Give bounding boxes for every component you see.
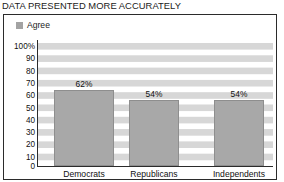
bar-independents[interactable]	[214, 100, 264, 166]
x-axis-category-labels: Democrats Republicans Independents	[37, 169, 273, 182]
bars-layer: 62% 54% 54%	[37, 43, 273, 166]
x-axis-line	[37, 166, 273, 167]
chart-frame: Agree 100% 90 80 70 60 50 40 30 20 10 0 …	[3, 14, 277, 180]
bar-group-independents: 54%	[214, 43, 264, 166]
bar-democrats[interactable]	[54, 90, 114, 166]
y-axis-tick-labels: 100% 90 80 70 60 50 40 30 20 10 0	[9, 43, 36, 167]
y-tick-40: 40	[26, 117, 35, 125]
bar-group-democrats: 62%	[54, 43, 114, 166]
y-tick-80: 80	[26, 68, 35, 76]
legend-label-agree: Agree	[27, 21, 50, 30]
y-tick-100: 100%	[14, 43, 35, 51]
chart-screenshot: DATA PRESENTED MORE ACCURATELY Agree 100…	[0, 0, 284, 182]
bar-group-republicans: 54%	[129, 43, 179, 166]
x-label-independents: Independents	[199, 169, 279, 180]
y-tick-0: 0	[30, 163, 35, 171]
legend-swatch-agree	[16, 22, 23, 29]
y-tick-70: 70	[26, 80, 35, 88]
chart-legend: Agree	[16, 20, 50, 31]
y-tick-30: 30	[26, 129, 35, 137]
bar-value-democrats: 62%	[54, 80, 114, 89]
y-tick-90: 90	[26, 55, 35, 63]
bar-value-independents: 54%	[214, 90, 264, 99]
y-tick-20: 20	[26, 141, 35, 149]
x-label-democrats: Democrats	[44, 169, 124, 180]
bar-value-republicans: 54%	[129, 90, 179, 99]
y-tick-50: 50	[26, 105, 35, 113]
y-tick-60: 60	[26, 92, 35, 100]
page-title: DATA PRESENTED MORE ACCURATELY	[2, 0, 282, 12]
bar-republicans[interactable]	[129, 100, 179, 166]
y-tick-10: 10	[26, 154, 35, 162]
x-label-republicans: Republicans	[114, 169, 194, 180]
plot-area: 62% 54% 54%	[37, 43, 273, 166]
